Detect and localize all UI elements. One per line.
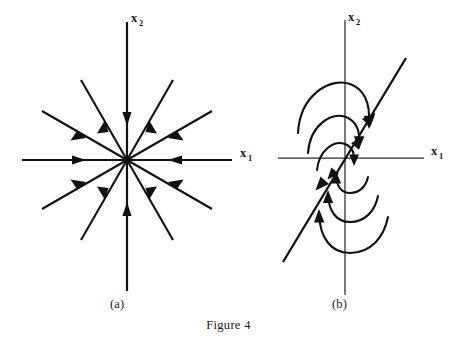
panel-a-axis-labels: x 1 x 2 bbox=[131, 11, 252, 163]
panel-a-arrow-120 bbox=[97, 120, 109, 134]
figure-caption: Figure 4 bbox=[0, 318, 457, 333]
phase-portrait-svg: x 1 x 2 bbox=[0, 0, 457, 348]
panel-b-group: x 1 x 2 bbox=[278, 10, 443, 295]
panel-a-ray-210 bbox=[42, 160, 127, 209]
panel-b-arc-upper-3 bbox=[317, 143, 354, 170]
panel-a-arrow-240 bbox=[97, 186, 109, 200]
panel-b-y-axis-subscript: 2 bbox=[356, 17, 360, 27]
panel-a-ray-330 bbox=[127, 160, 212, 209]
panel-b-arc-lower-2 bbox=[328, 195, 378, 222]
panel-a-arrow-270 bbox=[122, 202, 131, 216]
panel-a-arrow-000 bbox=[168, 155, 182, 164]
panel-a-ray-150 bbox=[42, 111, 127, 160]
panel-a-arrow-300 bbox=[146, 186, 158, 200]
panel-a-y-axis-subscript: 2 bbox=[139, 18, 143, 28]
panel-a-group: x 1 x 2 bbox=[22, 11, 252, 291]
panel-a-arrow-090 bbox=[122, 112, 131, 126]
panel-a-arrow-060 bbox=[146, 120, 158, 134]
panel-a-ray-300 bbox=[127, 160, 173, 240]
panel-a-caption: (a) bbox=[110, 297, 124, 312]
panel-b-arc-upper-1 bbox=[298, 83, 369, 133]
panel-b-arc-lower-1 bbox=[336, 176, 368, 193]
panel-b-y-axis-label: x bbox=[348, 10, 355, 24]
panel-b-x-axis-subscript: 1 bbox=[439, 151, 443, 161]
panel-b-x-axis-label: x bbox=[431, 144, 438, 158]
panel-a-x-axis-label: x bbox=[240, 146, 247, 160]
panel-b-lower-arcs bbox=[319, 176, 388, 253]
panel-b-arc-lower-3 bbox=[319, 214, 388, 253]
panel-b-arc-lower-3-arrow bbox=[314, 209, 324, 222]
panel-b-arc-upper-3-arrow bbox=[349, 154, 359, 166]
panel-a-ray-060 bbox=[127, 80, 173, 160]
panel-a-y-axis-label: x bbox=[131, 11, 138, 25]
panel-a-ray-120 bbox=[81, 80, 127, 160]
panel-a-arrow-180 bbox=[72, 155, 86, 164]
panel-a-ray-240 bbox=[81, 160, 127, 240]
figure-4-container: x 1 x 2 bbox=[0, 0, 457, 348]
panel-b-lower-arc-arrowheads bbox=[314, 171, 341, 222]
panel-b-caption: (b) bbox=[332, 297, 347, 312]
panel-a-ray-030 bbox=[127, 111, 212, 160]
panel-b-upper-arcs bbox=[298, 83, 369, 170]
panel-a-x-axis-subscript: 1 bbox=[248, 153, 252, 163]
